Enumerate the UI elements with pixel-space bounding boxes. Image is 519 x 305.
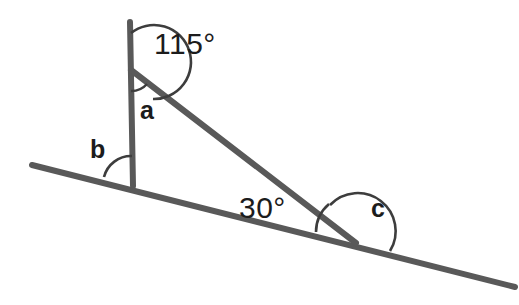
angle-label-115-degrees: 115° xyxy=(154,29,216,59)
angle-label-c: c xyxy=(371,196,385,221)
angle-label-30-degrees: 30° xyxy=(239,193,286,223)
angle-label-a: a xyxy=(140,98,154,123)
angle-label-b: b xyxy=(90,137,105,162)
geometry-diagram: 115° a b 30° c xyxy=(0,0,519,305)
geometry-canvas xyxy=(0,0,519,305)
arc-angle-b xyxy=(104,156,132,177)
vertical-line xyxy=(130,22,133,186)
